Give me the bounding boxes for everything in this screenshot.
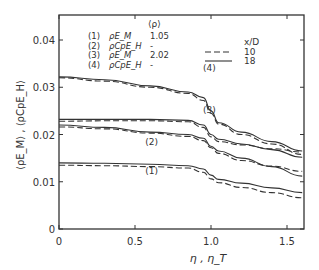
x-tick-label: 1.0 xyxy=(203,236,219,247)
legend-entry-rho: 2.02 xyxy=(150,50,169,60)
legend: ⟨ρ⟩(1)ρE_M1.05(2)ρCpE_H-(3)ρE_M2.02(4)ρC… xyxy=(88,19,259,70)
chart: 00.51.01.500.010.020.030.04 η , η_T⟨ρE_M… xyxy=(0,0,319,270)
legend-entry-id: (3) xyxy=(88,50,100,60)
curve-line xyxy=(59,77,302,151)
curve-line xyxy=(59,78,302,155)
axis-labels: η , η_T⟨ρE_M⟩ , ⟨ρCpE_H⟩ xyxy=(15,80,228,265)
y-axis-label: ⟨ρE_M⟩ , ⟨ρCpE_H⟩ xyxy=(15,80,27,170)
curve-label: (3) xyxy=(203,105,216,115)
legend-entry-rho: - xyxy=(150,60,153,70)
legend-style-label: 18 xyxy=(244,56,256,66)
legend-entry-quantity: ρCpE_H xyxy=(109,41,142,51)
legend-entry-quantity: ρCpE_H xyxy=(109,60,142,70)
y-tick-label: 0.02 xyxy=(33,130,55,141)
x-tick-label: 0.5 xyxy=(127,236,143,247)
legend-entry-rho: - xyxy=(150,41,153,51)
curve-line xyxy=(59,165,302,198)
x-tick-label: 1.5 xyxy=(279,236,295,247)
curve-label: (2) xyxy=(145,137,158,147)
legend-entry-quantity: ρE_M xyxy=(109,50,132,60)
legend-entry-rho: 1.05 xyxy=(150,31,169,41)
y-tick-label: 0.04 xyxy=(33,35,55,46)
legend-entry-id: (1) xyxy=(88,31,100,41)
curve-label: (4) xyxy=(203,63,216,73)
x-axis-label: η , η_T xyxy=(190,252,228,265)
x-tick-label: 0 xyxy=(56,236,62,247)
curve-line xyxy=(59,119,302,157)
legend-entry-quantity: ρE_M xyxy=(109,31,132,41)
data-curves xyxy=(59,77,302,198)
legend-entry-id: (2) xyxy=(88,41,100,51)
curve-label: (1) xyxy=(145,166,158,176)
curve-line xyxy=(59,163,302,193)
y-tick-label: 0 xyxy=(49,224,55,235)
legend-header: ⟨ρ⟩ xyxy=(148,19,161,29)
y-tick-label: 0.03 xyxy=(33,82,55,93)
legend-style-header: x/D xyxy=(244,37,259,47)
legend-entry-id: (4) xyxy=(88,60,100,70)
y-tick-label: 0.01 xyxy=(33,177,55,188)
